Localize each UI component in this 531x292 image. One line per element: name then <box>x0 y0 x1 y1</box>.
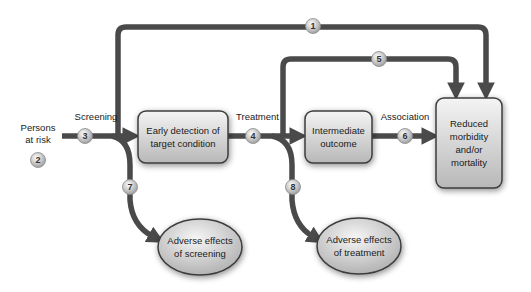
node-reduced-morbidity-text: Reduced morbidity and/or mortality <box>436 98 502 188</box>
marker-1: 1 <box>306 19 321 34</box>
node-adverse-screening-line1: Adverse effects <box>167 234 232 247</box>
node-adverse-screening-text: Adverse effects of screening <box>158 219 242 275</box>
marker-3: 3 <box>78 129 93 144</box>
node-reduced-line4: mortality <box>451 156 487 169</box>
marker-8: 8 <box>286 180 301 195</box>
node-early-detection-text: Early detection of target condition <box>138 111 228 163</box>
marker-7: 7 <box>123 180 138 195</box>
marker-2: 2 <box>31 153 46 168</box>
node-reduced-line1: Reduced <box>450 117 488 130</box>
marker-4: 4 <box>246 129 261 144</box>
node-intermediate-line2: outcome <box>320 137 356 150</box>
node-early-detection-line2: target condition <box>151 137 216 150</box>
step-label-screening: Screening <box>66 111 126 123</box>
node-intermediate-outcome-text: Intermediate outcome <box>305 111 372 163</box>
population-label-line1: Persons <box>14 122 62 134</box>
node-adverse-treatment-text: Adverse effects of treatment <box>317 218 401 274</box>
node-adverse-screening-line2: of screening <box>174 247 226 260</box>
node-early-detection-line1: Early detection of <box>146 124 219 137</box>
step-label-association: Association <box>374 111 436 123</box>
marker-5: 5 <box>372 52 387 67</box>
node-reduced-line2: morbidity <box>450 130 489 143</box>
step-label-treatment: Treatment <box>230 111 285 123</box>
node-adverse-treatment-line1: Adverse effects <box>326 233 391 246</box>
node-adverse-treatment-line2: of treatment <box>334 246 385 259</box>
node-intermediate-line1: Intermediate <box>312 124 365 137</box>
marker-6: 6 <box>398 129 413 144</box>
population-label: Persons at risk <box>14 122 62 146</box>
node-reduced-line3: and/or <box>456 143 483 156</box>
population-label-line2: at risk <box>14 134 62 146</box>
